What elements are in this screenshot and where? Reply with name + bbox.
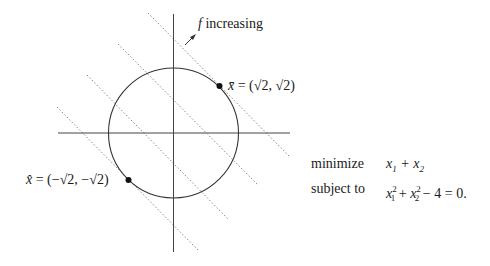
minimize-keyword: minimize [311,154,386,179]
x-hat-label: x̂ = (−√2, −√2) [26,172,109,188]
x-hat-symbol: x̂ [26,172,32,187]
level-line-3 [87,75,228,219]
subject-to-keyword: subject to [311,179,386,208]
x-hat-value: = (−√2, −√2) [36,172,109,187]
level-line-2 [118,44,258,185]
objective-row: minimize x1 + x2 [311,154,467,179]
objective-expression: x1 + x2 [386,154,424,179]
constraint-expression: x21 + x22 − 4 = 0. [386,179,467,208]
x-bar-value: = (√2, √2) [238,78,295,93]
constraint-row: subject to x21 + x22 − 4 = 0. [311,179,467,208]
optimization-problem: minimize x1 + x2 subject to x21 + x22 − … [311,154,467,208]
x-bar-symbol: x̄ [228,78,234,93]
point-x-bar [217,83,223,89]
x-bar-label: x̄ = (√2, √2) [228,78,295,94]
increasing-text: increasing [205,16,263,31]
point-x-hat [126,177,132,183]
f-increasing-label: f increasing [198,16,263,32]
f-symbol: f [198,16,202,31]
diagram-canvas [0,0,490,266]
